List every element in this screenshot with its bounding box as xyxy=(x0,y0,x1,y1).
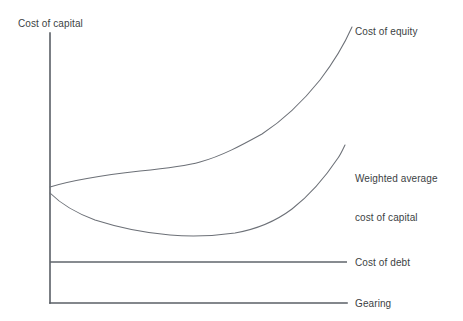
wacc-label-line2: cost of capital xyxy=(355,211,438,224)
cost-of-equity-curve xyxy=(50,27,352,187)
wacc-label-line1: Weighted average xyxy=(355,172,438,185)
wacc-label: Weighted average cost of capital xyxy=(355,146,438,250)
cost-of-capital-chart: Cost of capital Cost of equity Weighted … xyxy=(0,0,463,321)
y-axis-title: Cost of capital xyxy=(18,17,83,30)
x-axis-title: Gearing xyxy=(355,297,391,310)
cost-of-equity-label: Cost of equity xyxy=(355,25,418,38)
wacc-curve xyxy=(50,145,345,236)
cost-of-debt-label: Cost of debt xyxy=(355,256,410,269)
series-group xyxy=(50,27,352,262)
